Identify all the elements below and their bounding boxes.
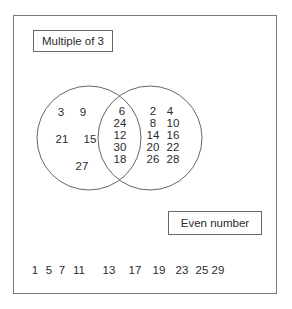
set-b-element: 2 [150, 105, 156, 117]
set-b-element: 22 [167, 141, 180, 153]
set-a-element: 9 [80, 106, 86, 118]
intersection-element: 18 [114, 153, 127, 165]
outside-element: 17 [129, 264, 142, 276]
intersection-element: 12 [114, 129, 127, 141]
outside-element: 5 [46, 264, 52, 276]
set-a-label-text: Multiple of 3 [42, 35, 104, 47]
set-a-element: 15 [84, 133, 97, 145]
outside-element: 13 [103, 264, 116, 276]
set-b-element: 14 [147, 129, 160, 141]
outside-element: 7 [59, 264, 65, 276]
intersection-element: 6 [119, 105, 125, 117]
set-b-element: 10 [167, 117, 180, 129]
set-b-element: 28 [167, 153, 180, 165]
set-b-label: Even number [168, 211, 262, 235]
set-b-element: 4 [167, 105, 173, 117]
outside-element: 25 [196, 264, 209, 276]
set-b-element: 16 [167, 129, 180, 141]
set-b-element: 8 [150, 117, 156, 129]
intersection-element: 30 [114, 141, 127, 153]
set-b-element: 26 [147, 153, 160, 165]
set-a-element: 27 [76, 160, 89, 172]
set-b-label-text: Even number [181, 217, 249, 229]
set-b-element: 20 [147, 141, 160, 153]
outside-element: 11 [73, 264, 85, 276]
set-a-element: 21 [56, 133, 69, 145]
outside-element: 1 [32, 264, 38, 276]
outside-element: 19 [153, 264, 166, 276]
outside-element: 29 [212, 264, 225, 276]
set-a-element: 3 [58, 106, 64, 118]
intersection-element: 24 [114, 117, 127, 129]
set-a-label: Multiple of 3 [33, 30, 113, 52]
outside-element: 23 [176, 264, 189, 276]
